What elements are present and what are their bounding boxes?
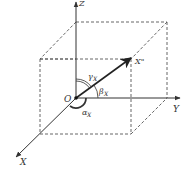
origin-label: O bbox=[64, 94, 72, 104]
vector-label: X" bbox=[134, 57, 144, 66]
alpha-label: α X bbox=[82, 108, 92, 118]
gamma-arc-inner bbox=[76, 81, 90, 88]
svg-text:X: X bbox=[92, 75, 98, 82]
coordinate-diagram: Z Y X O X" γ X β X α X bbox=[0, 0, 188, 171]
gamma-label: γ X bbox=[88, 72, 98, 82]
beta-arc bbox=[94, 85, 98, 98]
svg-text:X: X bbox=[86, 111, 92, 118]
beta-label: β X bbox=[98, 87, 109, 97]
alpha-arc bbox=[70, 98, 86, 108]
svg-text:X: X bbox=[103, 90, 109, 97]
x-axis bbox=[16, 98, 76, 157]
angle-arcs bbox=[70, 79, 98, 108]
x-axis-label: X bbox=[19, 157, 27, 167]
z-axis-label: Z bbox=[78, 0, 85, 8]
y-axis-label: Y bbox=[173, 104, 180, 114]
origin-point bbox=[74, 96, 78, 100]
